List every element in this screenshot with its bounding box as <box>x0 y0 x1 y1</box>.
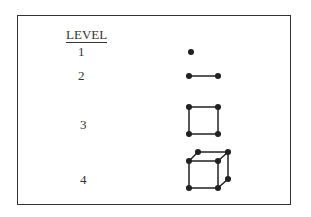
point-shape <box>189 50 194 55</box>
square-shape <box>187 105 221 137</box>
line-segment-shape <box>187 74 221 79</box>
cube-shape <box>187 150 231 191</box>
hypercube-levels-diagram <box>0 0 311 217</box>
